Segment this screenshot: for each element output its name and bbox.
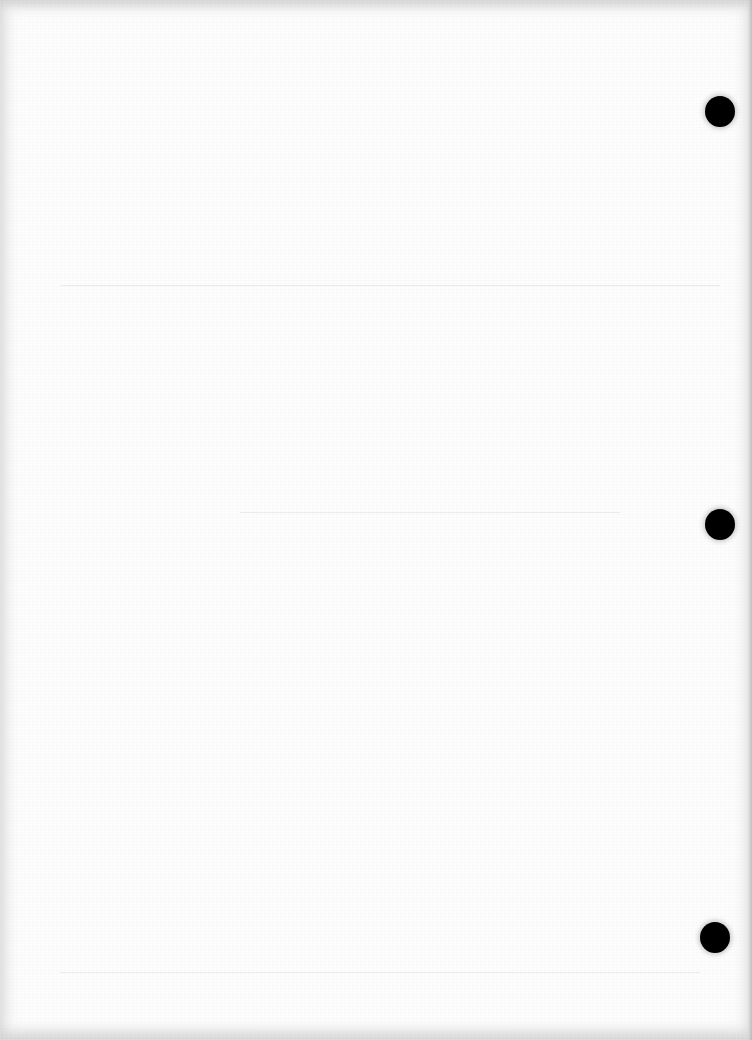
page-edge-shadow	[748, 0, 752, 1040]
bleed-through-line	[60, 285, 720, 286]
punch-hole-middle	[705, 509, 735, 540]
paper-texture	[0, 0, 752, 1040]
punch-hole-bottom	[700, 922, 730, 953]
blank-scanned-page	[0, 0, 752, 1040]
bleed-through-line	[240, 512, 620, 513]
bleed-through-line	[60, 972, 700, 973]
punch-hole-top	[705, 96, 735, 127]
